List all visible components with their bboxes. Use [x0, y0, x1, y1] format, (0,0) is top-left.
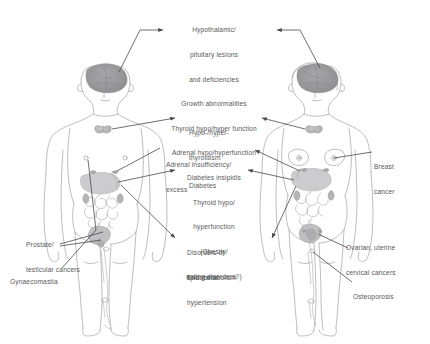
label-line: Prostate/: [26, 241, 106, 249]
female-brain: [297, 64, 338, 93]
label-line: and deficiencies: [155, 76, 273, 84]
label-line: Endocrine: [187, 274, 259, 282]
label-line: Growth abnormalities: [155, 100, 273, 108]
label-line: Disorders of: [187, 249, 259, 257]
label-diabetes: Diabetes: [189, 166, 249, 199]
arrow-hypothalamic-right: [277, 30, 320, 68]
label-breast-cancer: Breast cancer: [374, 147, 424, 204]
label-line: Breast: [374, 163, 424, 171]
female-uterus-ovaries: [299, 224, 321, 250]
label-osteoporosis: Osteoporosis: [353, 277, 423, 310]
female-thyroid: [306, 126, 323, 133]
arrow-lipid-right: [272, 186, 296, 238]
label-line: Gynaecomastia: [10, 278, 80, 286]
label-line: hyperfunction: [155, 223, 273, 231]
male-thyroid: [95, 126, 112, 133]
label-line: Osteoporosis: [353, 293, 423, 301]
label-line: Hypo-/hyper-: [189, 129, 269, 137]
label-line: hypertension: [187, 299, 259, 307]
label-line: cancer: [374, 188, 424, 196]
label-line: Ovarian, uterine: [346, 244, 426, 252]
label-line: Hypothalamic/: [155, 26, 273, 34]
leader-breast: [334, 152, 372, 158]
diagram-canvas: Hypothalamic/ pituitary lesions and defi…: [0, 0, 430, 344]
label-gynaecomastia: Gynaecomastia: [10, 262, 80, 295]
label-line: cervical cancers: [346, 269, 426, 277]
male-abdominal-organs: [80, 171, 123, 230]
label-line: pituitary lesions: [155, 51, 273, 59]
label-endocrine-hypertension: Endocrine hypertension: [187, 258, 259, 315]
label-line: Diabetes: [189, 182, 249, 190]
female-abdominal-organs: [291, 168, 334, 226]
